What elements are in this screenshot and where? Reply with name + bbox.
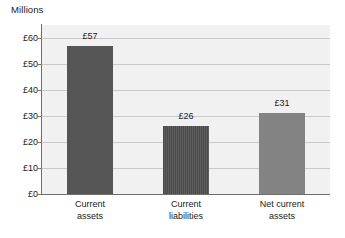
y-tick-label-20: £20: [23, 138, 38, 147]
x-axis-label-2-line-1: assets: [234, 211, 330, 223]
x-axis-label-1-line-0: Current: [138, 199, 234, 211]
x-axis-label-1: Currentliabilities: [138, 199, 234, 222]
bar-value-label-2: £31: [252, 99, 312, 108]
y-tick-mark-10: [38, 168, 42, 169]
y-tick-mark-30: [38, 116, 42, 117]
y-axis-line: [41, 24, 42, 195]
y-tick-mark-20: [38, 142, 42, 143]
x-axis-label-2-line-0: Net current: [234, 199, 330, 211]
y-tick-label-30: £30: [23, 112, 38, 121]
x-axis-label-0-line-0: Current: [42, 199, 138, 211]
x-axis-label-0: Currentassets: [42, 199, 138, 222]
x-axis-label-1-line-1: liabilities: [138, 211, 234, 223]
y-axis-labels: £0£10£20£30£40£50£60: [0, 0, 38, 238]
y-tick-mark-0: [38, 194, 42, 195]
bar-current-liabilities: [163, 126, 209, 194]
y-tick-mark-50: [38, 64, 42, 65]
bar-chart: Millions £0£10£20£30£40£50£60 £57£26£31 …: [0, 0, 345, 238]
x-axis-line: [41, 194, 330, 195]
bar-value-label-0: £57: [60, 32, 120, 41]
bar-value-label-1: £26: [156, 112, 216, 121]
y-tick-label-0: £0: [28, 190, 38, 199]
bar-net-current-assets: [259, 113, 305, 194]
y-tick-label-50: £50: [23, 60, 38, 69]
y-tick-mark-40: [38, 90, 42, 91]
y-tick-label-10: £10: [23, 164, 38, 173]
y-tick-mark-60: [38, 38, 42, 39]
y-tick-label-40: £40: [23, 86, 38, 95]
y-tick-label-60: £60: [23, 34, 38, 43]
plot-area: [42, 25, 330, 194]
bar-current-assets: [67, 46, 113, 194]
x-axis-label-2: Net currentassets: [234, 199, 330, 222]
x-axis-label-0-line-1: assets: [42, 211, 138, 223]
